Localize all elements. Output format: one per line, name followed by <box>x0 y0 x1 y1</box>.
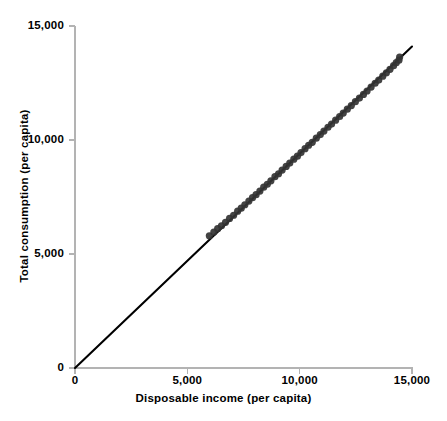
y-tick-label: 15,000 <box>28 19 64 31</box>
scatter-plot-figure: Disposable income (per capita) Total con… <box>0 0 447 421</box>
x-tick-label: 5,000 <box>172 374 202 386</box>
data-points <box>206 53 403 239</box>
x-tick-label: 10,000 <box>281 374 317 386</box>
data-point <box>396 53 403 60</box>
x-tick-label: 0 <box>72 374 79 386</box>
scatter-layer <box>0 0 447 421</box>
y-tick-label: 0 <box>57 361 64 373</box>
y-tick-label: 5,000 <box>34 247 64 259</box>
x-tick-label: 15,000 <box>394 374 430 386</box>
y-tick-label: 10,000 <box>28 133 64 145</box>
y-axis-title: Total consumption (per capita) <box>18 86 30 306</box>
x-axis-title: Disposable income (per capita) <box>0 392 447 404</box>
